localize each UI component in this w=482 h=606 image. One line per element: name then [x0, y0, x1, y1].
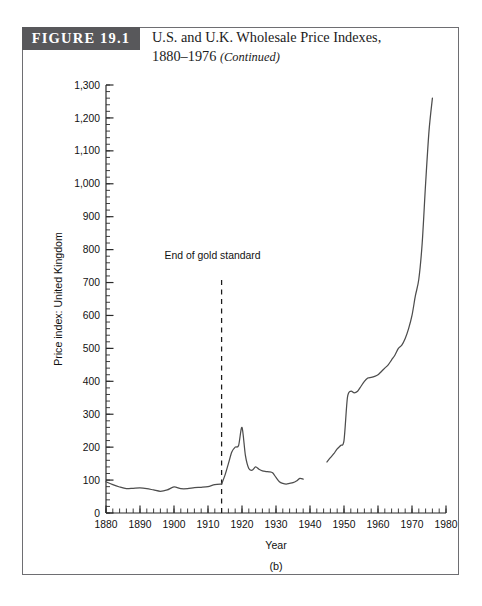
figure-container: FIGURE 19.1 U.S. and U.K. Wholesale Pric…: [0, 0, 482, 606]
data-series-group: [106, 98, 432, 491]
x-axis-tick-label: 1950: [333, 519, 356, 530]
annotation-gold-standard: End of gold standard: [165, 250, 261, 513]
x-axis-tick-label: 1930: [265, 519, 288, 530]
x-axis-tick-label: 1940: [299, 519, 322, 530]
x-axis-tick-label: 1980: [435, 519, 458, 530]
y-axis-tick-label: 0: [94, 508, 100, 519]
x-axis-tick-label: 1920: [231, 519, 254, 530]
y-axis-tick-label: 1,000: [74, 178, 100, 189]
x-axis: 1880189019001910192019301940195019601970…: [95, 506, 458, 531]
x-axis-tick-label: 1880: [95, 519, 118, 530]
y-axis-tick-label: 500: [83, 343, 100, 354]
y-axis-tick-label: 400: [83, 376, 100, 387]
y-axis-tick-label: 1,200: [74, 113, 100, 124]
y-axis-title: Price index: United Kingdom: [52, 232, 64, 366]
y-axis-tick-label: 800: [83, 244, 100, 255]
y-axis-tick-label: 700: [83, 277, 100, 288]
x-axis-tick-label: 1900: [163, 519, 186, 530]
chart-plot-area: 01002003004005006007008009001,0001,1001,…: [22, 27, 459, 575]
line-chart: 01002003004005006007008009001,0001,1001,…: [22, 27, 459, 575]
y-axis-tick-label: 600: [83, 310, 100, 321]
x-axis-tick-label: 1960: [367, 519, 390, 530]
y-axis-tick-label: 900: [83, 211, 100, 222]
x-axis-tick-label: 1970: [401, 519, 424, 530]
y-axis: 01002003004005006007008009001,0001,1001,…: [74, 80, 113, 519]
series-line: [222, 427, 304, 484]
series-line: [327, 98, 432, 462]
annotation-label: End of gold standard: [165, 250, 261, 261]
x-axis-tick-label: 1890: [129, 519, 152, 530]
y-axis-tick-label: 100: [83, 475, 100, 486]
y-axis-tick-label: 300: [83, 409, 100, 420]
panel-label: (b): [269, 560, 282, 572]
x-axis-tick-label: 1910: [197, 519, 220, 530]
series-line: [106, 482, 222, 492]
x-axis-title: Year: [265, 539, 287, 551]
y-axis-tick-label: 1,300: [74, 80, 100, 91]
y-axis-tick-label: 1,100: [74, 145, 100, 156]
y-axis-tick-label: 200: [83, 442, 100, 453]
